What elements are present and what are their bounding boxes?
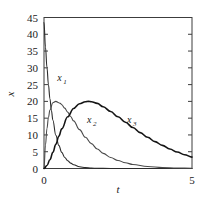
decay-curves-plot: 051015202530354045 05 x1x2x3 t x <box>0 0 207 203</box>
y-axis-ticks-right <box>188 18 192 169</box>
y-axis-title: x <box>4 91 16 97</box>
svg-text:x: x <box>86 114 92 125</box>
y-tick-label: 30 <box>27 62 39 74</box>
curve-label-x1: x1 <box>56 72 67 86</box>
svg-text:x: x <box>126 114 132 125</box>
x-tick-label: 0 <box>41 174 47 186</box>
y-tick-label: 0 <box>33 163 39 175</box>
curve-label-x2: x2 <box>86 114 97 128</box>
x-axis-title: t <box>116 183 120 195</box>
y-tick-label: 40 <box>27 28 39 40</box>
y-tick-label: 20 <box>27 95 39 107</box>
x-tick-label: 5 <box>189 174 195 186</box>
y-tick-label: 15 <box>27 112 39 124</box>
curve-x1 <box>44 23 192 169</box>
data-curves <box>44 23 192 169</box>
plot-frame <box>44 18 192 169</box>
y-tick-label: 10 <box>27 129 39 141</box>
y-tick-label: 5 <box>33 146 39 158</box>
chart-figure: 051015202530354045 05 x1x2x3 t x <box>0 0 207 203</box>
y-tick-label: 35 <box>27 45 39 57</box>
y-axis-tick-labels: 051015202530354045 <box>27 12 39 175</box>
y-tick-label: 25 <box>27 79 39 91</box>
y-tick-label: 45 <box>27 12 39 24</box>
svg-text:3: 3 <box>132 120 137 128</box>
svg-text:1: 1 <box>63 78 67 86</box>
svg-text:2: 2 <box>93 120 97 128</box>
svg-text:x: x <box>56 72 62 83</box>
curve-annotations: x1x2x3 <box>56 72 137 128</box>
